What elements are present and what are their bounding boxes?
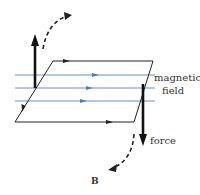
- figure-caption: B: [91, 176, 99, 186]
- rotation-arrow-top: [43, 16, 68, 49]
- field-arrow-1: [92, 73, 99, 77]
- rotation-arrow-top-head: [64, 12, 72, 20]
- motor-loop-diagram: magnetic field force B: [0, 0, 200, 195]
- field-arrow-2: [86, 86, 93, 90]
- force-arrow-up: [31, 34, 39, 88]
- label-magnetic: magnetic: [154, 72, 200, 83]
- field-arrow-3: [80, 99, 87, 103]
- label-force: force: [150, 135, 176, 146]
- current-arrow-bottom: [106, 120, 113, 124]
- rotation-arrow-bottom-head: [108, 164, 117, 172]
- force-arrow-down: [139, 84, 147, 146]
- current-arrow-top: [63, 59, 70, 63]
- label-field: field: [162, 85, 185, 96]
- rotation-arrow-bottom: [113, 134, 134, 168]
